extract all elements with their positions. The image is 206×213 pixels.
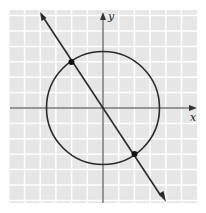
intersection-point	[69, 59, 75, 65]
x-axis-label: x	[190, 111, 197, 124]
y-axis-label: y	[107, 10, 115, 23]
intersection-point	[132, 151, 138, 157]
graph: x y	[0, 0, 206, 213]
